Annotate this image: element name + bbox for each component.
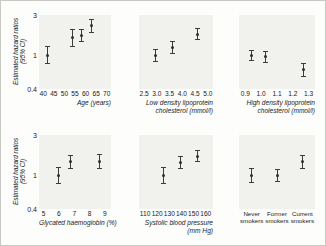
y-tick-label: 1: [33, 172, 37, 179]
x-tick-label: 5: [42, 210, 46, 218]
point-estimate-marker: [196, 155, 199, 158]
error-bar-cap-upper: [79, 29, 84, 30]
error-bar-cap-lower: [195, 39, 200, 40]
point-estimate-marker: [264, 55, 267, 58]
x-tick-label: 65: [93, 90, 100, 98]
x-tick-label: 60: [82, 90, 89, 98]
point-estimate-marker: [276, 174, 279, 177]
error-bar-cap-lower: [89, 32, 94, 33]
plot-area-ldl-cholesterol: 2.53.03.54.04.55.0: [139, 15, 213, 89]
x-tick-label: 160: [200, 210, 211, 218]
y-tick-label: 1: [33, 52, 37, 59]
error-bar-cap-upper: [89, 19, 94, 20]
plot-area-hdl-cholesterol: 0.91.01.11.21.3: [239, 15, 315, 89]
y-axis-title: Estimated hazard ratios(95% CI): [12, 127, 27, 215]
plot-area-age: 310.440455055606570: [39, 15, 111, 89]
panel-glycated-haemoglobin: 310.456789Estimated hazard ratios(95% CI…: [39, 135, 111, 209]
error-bar-cap-lower: [170, 53, 175, 54]
x-tick-label: Currentsmokers: [285, 210, 319, 224]
y-tick-label: 0.4: [27, 206, 37, 213]
point-estimate-marker: [154, 54, 157, 57]
x-tick-label: 140: [176, 210, 187, 218]
error-bar-cap-upper: [153, 49, 158, 50]
x-tick-label: 120: [152, 210, 163, 218]
point-estimate-marker: [57, 174, 60, 177]
x-axis-ticks-ldl-cholesterol: 2.53.03.54.04.55.0: [139, 89, 213, 99]
point-estimate-marker: [171, 46, 174, 49]
panel-smoking-status: NeversmokersFormersmokersCurrentsmokers: [239, 135, 315, 209]
error-bar-cap-upper: [301, 63, 306, 64]
error-bar-cap-upper: [249, 168, 254, 169]
point-estimate-marker: [179, 161, 182, 164]
panel-age: 310.440455055606570Estimated hazard rati…: [39, 15, 111, 89]
error-bar-cap-lower: [249, 60, 254, 61]
x-tick-label: 70: [103, 90, 110, 98]
error-bar-cap-upper: [275, 169, 280, 170]
error-bar-cap-lower: [97, 168, 102, 169]
error-bar-cap-lower: [70, 46, 75, 47]
hazard-ratio-figure: 310.440455055606570Estimated hazard rati…: [0, 0, 326, 246]
error-bar-cap-upper: [68, 155, 73, 156]
panel-hdl-cholesterol: 0.91.01.11.21.3High density lipoproteinc…: [239, 15, 315, 89]
error-bar-cap-upper: [56, 167, 61, 168]
error-bar-cap-upper: [178, 156, 183, 157]
x-axis-ticks-age: 40455055606570: [39, 89, 111, 99]
x-tick-label: 1.3: [304, 90, 313, 98]
point-estimate-marker: [90, 24, 93, 27]
point-estimate-marker: [250, 174, 253, 177]
x-tick-label: 40: [40, 90, 47, 98]
x-axis-ticks-hdl-cholesterol: 0.91.01.11.21.3: [239, 89, 315, 99]
point-estimate-marker: [71, 36, 74, 39]
x-tick-label: 50: [61, 90, 68, 98]
x-tick-label: 7: [72, 210, 76, 218]
error-bar-cap-upper: [70, 29, 75, 30]
x-tick-label: 5.0: [203, 90, 212, 98]
y-tick-label: 3: [33, 132, 37, 139]
panel-systolic-blood-pressure: 110120130140150160Systolic blood pressur…: [139, 135, 213, 209]
x-axis-ticks-glycated-haemoglobin: 56789: [39, 209, 111, 219]
x-tick-label: 1.0: [257, 90, 266, 98]
x-tick-label: 3.5: [165, 90, 174, 98]
x-axis-title-glycated-haemoglobin: Glycated haemoglobin (%): [39, 219, 111, 227]
point-estimate-marker: [162, 174, 165, 177]
point-estimate-marker: [250, 54, 253, 57]
x-tick-label: 45: [50, 90, 57, 98]
x-axis-ticks-systolic-blood-pressure: 110120130140150160: [139, 209, 213, 219]
x-tick-label: 3.0: [152, 90, 161, 98]
x-tick-label: 1.1: [272, 90, 281, 98]
y-tick-label: 3: [33, 12, 37, 19]
point-estimate-marker: [302, 68, 305, 71]
error-bar-cap-lower: [45, 63, 50, 64]
point-estimate-marker: [98, 160, 101, 163]
error-bar-cap-lower: [153, 61, 158, 62]
point-estimate-marker: [46, 54, 49, 57]
x-tick-label: 4.5: [191, 90, 200, 98]
y-axis-title: Estimated hazard ratios(95% CI): [12, 7, 27, 95]
x-tick-label: 130: [164, 210, 175, 218]
error-bar-cap-upper: [161, 167, 166, 168]
y-tick-label: 0.4: [27, 86, 37, 93]
error-bar-cap-upper: [170, 41, 175, 42]
point-estimate-marker: [301, 160, 304, 163]
x-tick-label: 8: [88, 210, 92, 218]
x-tick-label: 150: [188, 210, 199, 218]
x-tick-label: 55: [71, 90, 78, 98]
x-axis-ticks-smoking-status: NeversmokersFormersmokersCurrentsmokers: [239, 209, 315, 219]
error-bar-cap-lower: [249, 182, 254, 183]
x-axis-title-hdl-cholesterol: High density lipoproteincholesterol (mmo…: [239, 99, 315, 115]
x-axis-title-age: Age (years): [39, 99, 111, 107]
x-tick-label: 6: [57, 210, 61, 218]
error-bar-cap-lower: [301, 76, 306, 77]
x-tick-label: 4.0: [178, 90, 187, 98]
plot-area-systolic-blood-pressure: 110120130140150160: [139, 135, 213, 209]
error-bar-cap-lower: [300, 168, 305, 169]
panel-ldl-cholesterol: 2.53.03.54.04.55.0Low density lipoprotei…: [139, 15, 213, 89]
error-bar-cap-upper: [195, 150, 200, 151]
x-axis-title-systolic-blood-pressure: Systolic blood pressure(mm Hg): [139, 219, 213, 235]
error-bar-cap-upper: [300, 155, 305, 156]
point-estimate-marker: [69, 160, 72, 163]
error-bar-cap-lower: [79, 41, 84, 42]
error-bar-cap-lower: [161, 183, 166, 184]
x-tick-label: 110: [140, 210, 151, 218]
error-bar-cap-upper: [45, 46, 50, 47]
